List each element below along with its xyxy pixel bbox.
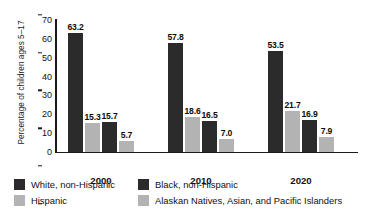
bar-group: 63.215.315.75.7 xyxy=(68,20,134,152)
bar-value-label: 5.7 xyxy=(121,130,133,140)
bar: 53.5 xyxy=(268,51,283,152)
bar-value-label: 57.8 xyxy=(167,32,183,42)
y-axis-tick-label: 60 xyxy=(42,34,52,44)
bar-value-label: 21.7 xyxy=(284,100,300,110)
bar-value-label: 16.5 xyxy=(201,110,217,120)
bar: 57.8 xyxy=(168,43,183,152)
y-axis-tick-label: 0 xyxy=(47,147,52,157)
bar-chart-figure: Percentage of children ages 5–17 7060504… xyxy=(0,0,373,221)
legend-swatch-light-icon xyxy=(138,195,149,206)
bar-value-label: 15.7 xyxy=(101,111,117,121)
legend-entry-black-non-hispanic: Black, non-Hispanic xyxy=(138,176,238,192)
bar: 15.3 xyxy=(85,123,100,152)
legend-swatch-dark-icon xyxy=(138,179,149,190)
bar: 7.0 xyxy=(219,139,234,152)
bar-value-label: 18.6 xyxy=(184,106,200,116)
legend-label: Black, non-Hispanic xyxy=(155,179,238,190)
y-axis-tick-label: 10 xyxy=(42,128,52,138)
legend-label: White, non-Hispanic xyxy=(31,179,115,190)
y-axis-tick-label: 50 xyxy=(42,53,52,63)
bar-value-label: 16.9 xyxy=(301,109,317,119)
y-axis-tick-label: 30 xyxy=(42,90,52,100)
chart-legend: White, non-Hispanic Black, non-Hispanic … xyxy=(14,176,366,208)
bar: 16.5 xyxy=(202,121,217,152)
bar: 21.7 xyxy=(285,111,300,152)
legend-row-1: White, non-Hispanic Black, non-Hispanic xyxy=(14,176,366,192)
legend-entry-white-non-hispanic: White, non-Hispanic xyxy=(14,176,115,192)
y-axis-title: Percentage of children ages 5–17 xyxy=(17,8,26,158)
bar-value-label: 7.0 xyxy=(221,128,233,138)
bar: 63.2 xyxy=(68,33,83,152)
bar-group: 57.818.616.57.0 xyxy=(168,20,234,152)
legend-label: Hispanic xyxy=(31,195,67,206)
y-axis-tick-mark xyxy=(38,165,42,166)
legend-swatch-light-icon xyxy=(14,195,25,206)
bar-group: 53.521.716.97.9 xyxy=(268,20,334,152)
bar: 16.9 xyxy=(302,120,317,152)
legend-entry-hispanic: Hispanic xyxy=(14,192,67,208)
legend-entry-alaskan-asian-pacific: Alaskan Natives, Asian, and Pacific Isla… xyxy=(138,192,342,208)
bar-value-label: 7.9 xyxy=(321,126,333,136)
plot-area: 706050403020100 63.215.315.75.757.818.61… xyxy=(56,20,358,152)
y-axis-tick-label: 70 xyxy=(42,15,52,25)
legend-row-2: Hispanic Alaskan Natives, Asian, and Pac… xyxy=(14,192,366,208)
bar: 15.7 xyxy=(102,122,117,152)
bar: 7.9 xyxy=(319,137,334,152)
bar-value-label: 63.2 xyxy=(67,22,83,32)
bar: 5.7 xyxy=(119,141,134,152)
bar-value-label: 15.3 xyxy=(84,112,100,122)
bar: 18.6 xyxy=(185,117,200,152)
legend-label: Alaskan Natives, Asian, and Pacific Isla… xyxy=(155,195,342,206)
y-axis-tick-label: 40 xyxy=(42,72,52,82)
bar-value-label: 53.5 xyxy=(267,40,283,50)
y-axis-tick-mark xyxy=(38,14,42,15)
legend-swatch-dark-icon xyxy=(14,179,25,190)
y-axis-tick-label: 20 xyxy=(42,109,52,119)
